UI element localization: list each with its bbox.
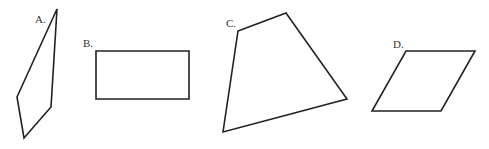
shape-d-label: D. — [393, 38, 404, 50]
shape-d-group: D. — [372, 38, 475, 111]
shape-a-label: A. — [35, 13, 46, 25]
shape-b — [96, 51, 189, 99]
shape-c — [223, 13, 347, 132]
shape-d — [372, 51, 475, 111]
shapes-figure: A. B. C. D. — [0, 0, 489, 149]
shape-a-group: A. — [17, 9, 57, 138]
shape-b-group: B. — [83, 37, 189, 99]
shape-a — [17, 9, 57, 138]
shape-c-label: C. — [226, 17, 236, 29]
shape-c-group: C. — [223, 13, 347, 132]
shape-b-label: B. — [83, 37, 93, 49]
